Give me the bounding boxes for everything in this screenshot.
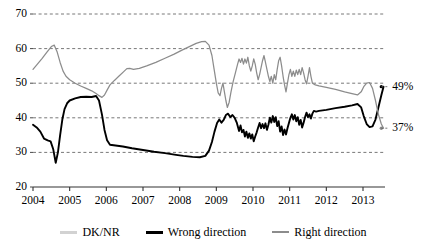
y-tick-label-50: 50 <box>5 77 27 89</box>
y-tick-label-60: 60 <box>5 43 27 55</box>
legend-swatch-right-direction-icon <box>272 231 289 233</box>
x-tick-label-2008: 2008 <box>160 195 200 207</box>
endpoint-label-wrong-direction: 49% <box>392 81 413 93</box>
series-paths <box>33 41 384 162</box>
legend-item-wrong-direction: Wrong direction <box>146 226 247 238</box>
chart-plot-area <box>0 0 427 250</box>
x-tick-label-2009: 2009 <box>196 195 236 207</box>
chart-container: 706050403020 200420052006200720082009201… <box>0 0 427 250</box>
y-tick-label-70: 70 <box>5 8 27 20</box>
series-line-right-direction <box>33 41 384 128</box>
endpoint-label-right-direction: 37% <box>392 122 413 134</box>
y-tick-label-30: 30 <box>5 146 27 158</box>
series-line-wrong-direction <box>33 87 384 163</box>
x-tick-label-2011: 2011 <box>270 195 310 207</box>
y-tick-label-20: 20 <box>5 181 27 193</box>
axis-lines <box>30 14 385 191</box>
x-tick-label-2004: 2004 <box>13 195 53 207</box>
x-tick-label-2013: 2013 <box>343 195 383 207</box>
legend-swatch-wrong-direction-icon <box>146 231 163 234</box>
y-tick-label-40: 40 <box>5 112 27 124</box>
x-tick-label-2007: 2007 <box>123 195 163 207</box>
chart-legend: DK/NR Wrong direction Right direction <box>0 222 427 242</box>
legend-item-right-direction: Right direction <box>272 226 366 238</box>
legend-swatch-dknr-icon <box>60 231 77 234</box>
x-tick-label-2006: 2006 <box>86 195 126 207</box>
legend-label-right-direction: Right direction <box>294 226 366 238</box>
gridlines <box>33 14 385 152</box>
x-tick-label-2005: 2005 <box>50 195 90 207</box>
legend-item-dknr: DK/NR <box>60 226 119 238</box>
x-tick-label-2010: 2010 <box>233 195 273 207</box>
legend-label-dknr: DK/NR <box>82 226 119 238</box>
legend-label-wrong-direction: Wrong direction <box>168 226 247 238</box>
x-tick-label-2012: 2012 <box>306 195 346 207</box>
